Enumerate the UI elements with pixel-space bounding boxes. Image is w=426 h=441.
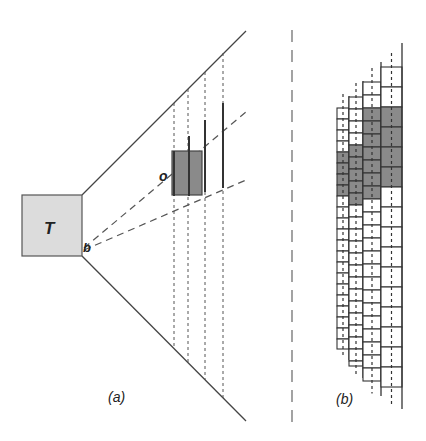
object-o-label: o (159, 168, 168, 184)
frustum-lower-edge (82, 256, 246, 421)
caption-a: (a) (108, 389, 125, 405)
ray-lower-dashed (84, 180, 246, 250)
depth-slices (174, 53, 223, 398)
grid-column-1 (337, 94, 349, 360)
grid-cell-free (363, 264, 381, 277)
grid-cell-free (363, 342, 381, 355)
grid-column-3 (363, 62, 381, 396)
caption-b: (b) (336, 391, 353, 407)
grid-cell-occupied (363, 186, 381, 199)
grid-column-4 (381, 43, 402, 409)
diagram-canvas: T b o (a) (b) (0, 0, 426, 441)
object-o (172, 151, 202, 195)
grid-cell-occupied (363, 108, 381, 121)
corner-b-label: b (83, 240, 91, 255)
panel-b-grid (337, 43, 402, 409)
grid-column-2 (349, 81, 363, 378)
panel-a: T b o (a) (22, 31, 246, 421)
box-t-label: T (44, 219, 56, 238)
